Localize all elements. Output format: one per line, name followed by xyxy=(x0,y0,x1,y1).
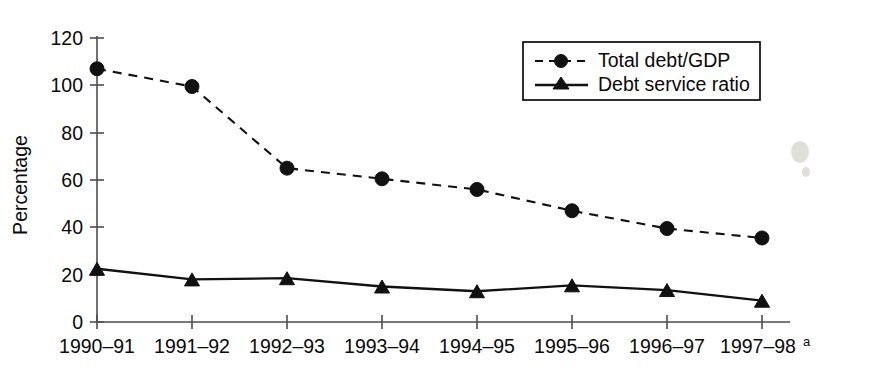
data-point-circle xyxy=(470,182,484,196)
x-tick-label-1994-95: 1994–95 xyxy=(439,335,515,357)
y-tick-label-100: 100 xyxy=(50,74,83,96)
y-tick-label-120: 120 xyxy=(50,27,83,49)
y-tick-label-80: 80 xyxy=(61,122,83,144)
chart-figure: 120 100 80 60 40 20 0 Percentage 1990–91… xyxy=(0,0,872,383)
y-tick-label-20: 20 xyxy=(61,264,83,286)
chart-legend: Total debt/GDP Debt service ratio xyxy=(523,42,760,100)
y-tick-label-40: 40 xyxy=(61,216,83,238)
data-point-circle xyxy=(565,204,579,218)
legend-marker-circle-icon xyxy=(555,55,568,68)
x-tick-label-1990-91: 1990–91 xyxy=(59,335,135,357)
y-tick-label-0: 0 xyxy=(72,311,83,333)
x-tick-label-1996-97: 1996–97 xyxy=(629,335,705,357)
legend-label-total-debt-gdp: Total debt/GDP xyxy=(598,49,730,71)
x-tick-label-1992-93: 1992–93 xyxy=(249,335,325,357)
data-point-circle xyxy=(660,222,674,236)
line-chart: 120 100 80 60 40 20 0 Percentage 1990–91… xyxy=(0,0,872,383)
x-tick-label-1997-98: 1997–98 xyxy=(720,335,796,357)
data-point-circle xyxy=(90,62,104,76)
paper-speck xyxy=(791,141,809,163)
paper-speck xyxy=(802,167,810,177)
y-tick-label-60: 60 xyxy=(61,169,83,191)
data-point-circle xyxy=(185,80,199,94)
legend-label-debt-service-ratio: Debt service ratio xyxy=(598,73,750,95)
x-tick-label-1995-96: 1995–96 xyxy=(534,335,610,357)
data-point-circle xyxy=(755,231,769,245)
x-tick-label-1991-92: 1991–92 xyxy=(154,335,230,357)
y-axis-title: Percentage xyxy=(9,135,31,235)
data-point-circle xyxy=(280,161,294,175)
x-tick-superscript-a: a xyxy=(803,334,811,349)
x-tick-label-1993-94: 1993–94 xyxy=(344,335,420,357)
data-point-circle xyxy=(375,172,389,186)
